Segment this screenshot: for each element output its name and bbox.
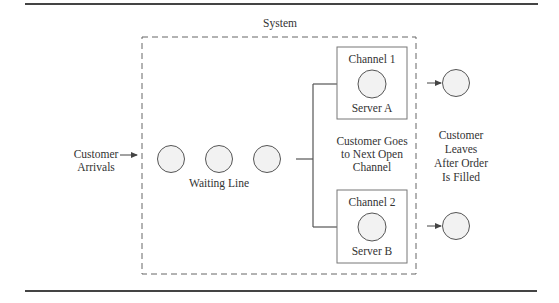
waiting-customer-icon	[254, 146, 281, 173]
server-a-label: Server A	[352, 102, 393, 114]
waiting-line: Waiting Line	[158, 146, 281, 191]
channel-1-label: Channel 1	[349, 53, 396, 65]
departure-2	[427, 213, 470, 240]
server-a-icon	[358, 70, 386, 98]
departure-1	[427, 70, 470, 97]
exit-label: Customer Leaves After Order Is Filled	[434, 129, 488, 183]
arrivals-label-line2: Arrivals	[77, 161, 115, 173]
channel-2-label: Channel 2	[349, 196, 396, 208]
departed-customer-icon	[443, 70, 470, 97]
server-b-icon	[358, 213, 386, 241]
svg-text:Customer Goes: Customer Goes	[336, 135, 408, 147]
routing-label: Customer Goes to Next Open Channel	[336, 135, 408, 173]
svg-text:Channel: Channel	[353, 161, 391, 173]
svg-text:After Order: After Order	[434, 157, 488, 169]
departed-customer-icon	[443, 213, 470, 240]
customer-arrivals: Customer Arrivals	[74, 148, 137, 173]
channel-2: Channel 2 Server B	[337, 190, 407, 263]
waiting-line-label: Waiting Line	[189, 177, 249, 190]
svg-text:to Next Open: to Next Open	[341, 148, 403, 161]
svg-text:Leaves: Leaves	[445, 143, 478, 155]
waiting-customer-icon	[206, 146, 233, 173]
routing-connector	[296, 84, 337, 227]
svg-text:Customer: Customer	[439, 129, 484, 141]
waiting-customer-icon	[158, 146, 185, 173]
system-label: System	[263, 17, 297, 30]
single-phase-multichannel-queue-diagram: System Customer Arrivals Waiting Line Cu…	[0, 0, 559, 303]
channel-1: Channel 1 Server A	[337, 47, 407, 119]
svg-text:Is Filled: Is Filled	[442, 171, 480, 183]
server-b-label: Server B	[352, 245, 393, 257]
arrivals-label-line1: Customer	[74, 148, 119, 160]
